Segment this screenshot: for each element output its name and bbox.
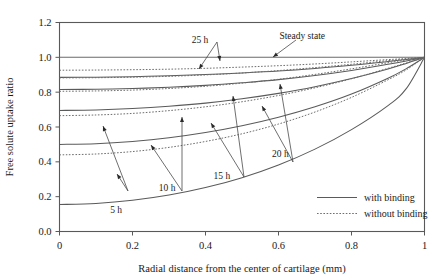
- annotation-10-h: 10 h: [159, 183, 176, 193]
- x-tick-label: 1: [422, 240, 427, 251]
- x-tick-label: 0.6: [272, 240, 285, 251]
- legend-label-without-binding: without binding: [364, 208, 428, 219]
- line-chart: 00.20.40.60.81 0.00.20.40.60.81.01.2: [0, 0, 445, 280]
- y-tick-label: 1.2: [38, 17, 51, 28]
- y-tick-label: 0.0: [38, 226, 51, 237]
- x-tick-label: 0.4: [199, 240, 213, 251]
- annotation-20-h: 20 h: [272, 149, 289, 159]
- y-tick-label: 0.8: [38, 87, 51, 98]
- y-tick-label: 1.0: [38, 52, 51, 63]
- y-tick-label: 0.4: [38, 156, 52, 167]
- y-tick-label: 0.2: [38, 191, 51, 202]
- annotation-steady-state: Steady state: [279, 31, 325, 41]
- legend-label-with-binding: with binding: [364, 192, 415, 203]
- annotation-15-h: 15 h: [214, 171, 231, 181]
- x-tick-label: 0: [57, 240, 62, 251]
- x-tick-label: 0.8: [345, 240, 358, 251]
- x-tick-label: 0.2: [126, 240, 139, 251]
- y-tick-label: 0.6: [38, 122, 51, 133]
- x-axis-title: Radial distance from the center of carti…: [138, 263, 346, 275]
- chart-figure: 00.20.40.60.81 0.00.20.40.60.81.01.2: [0, 0, 445, 280]
- annotation-5-h: 5 h: [110, 205, 122, 215]
- chart-background: [0, 0, 445, 280]
- annotation-25-h: 25 h: [192, 35, 209, 45]
- y-axis-title: Free solute uptake ratio: [4, 78, 15, 177]
